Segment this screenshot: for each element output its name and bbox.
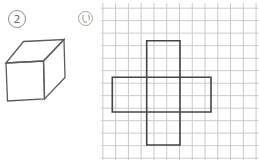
- cube-right-face: [44, 40, 66, 100]
- cube-top-face: [6, 40, 64, 64]
- worksheet-figure: 2: [0, 0, 259, 161]
- cube-front-face: [6, 61, 45, 101]
- net-horizontal-rect: [112, 77, 211, 112]
- hiragana-i-right-stroke: [89, 15, 90, 20]
- net-vertical-rect: [147, 41, 180, 145]
- option-label-layer: [0, 0, 100, 30]
- hiragana-i-glyph: [83, 15, 90, 22]
- hiragana-i-left-stroke: [83, 15, 87, 22]
